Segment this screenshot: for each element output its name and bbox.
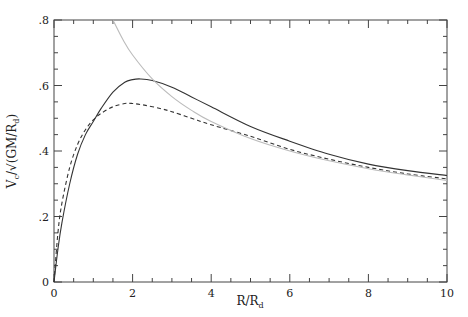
- series-dashed-line: [54, 103, 447, 282]
- axis-ticks: [54, 20, 447, 282]
- x-tick-label: 10: [440, 287, 454, 300]
- x-tick-label: 2: [129, 287, 136, 300]
- y-axis-label: Vc/√(GM/Rd): [5, 114, 21, 189]
- y-tick-label: .2: [39, 211, 50, 224]
- y-tick-label: .6: [39, 80, 50, 93]
- y-tick-label: 0: [42, 276, 49, 289]
- y-tick-label: .4: [39, 145, 50, 158]
- x-tick-label: 4: [208, 287, 215, 300]
- y-tick-label: .8: [39, 14, 50, 27]
- x-axis-label: R/Rd: [236, 294, 263, 310]
- x-tick-label: 8: [365, 287, 372, 300]
- series-solid-line: [54, 79, 447, 282]
- tick-labels: 02468100.2.4.6.8: [39, 14, 455, 300]
- series-keplerian-line: [113, 20, 447, 180]
- rotation-curve-chart: 02468100.2.4.6.8 R/Rd Vc/√(GM/Rd): [0, 0, 468, 317]
- x-tick-label: 0: [51, 287, 58, 300]
- plot-border: [54, 20, 447, 282]
- curves: [54, 20, 447, 282]
- plot-frame: [54, 20, 447, 282]
- x-tick-label: 6: [286, 287, 293, 300]
- chart-root: 02468100.2.4.6.8 R/Rd Vc/√(GM/Rd): [0, 0, 468, 317]
